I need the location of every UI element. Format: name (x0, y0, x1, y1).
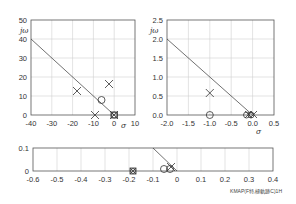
x-tick: -0.1 (147, 175, 160, 184)
y-tick: 1.5 (153, 54, 163, 63)
x-tick: 10 (131, 119, 139, 128)
x-tick: -0.5 (225, 119, 238, 128)
plot-frame (167, 20, 274, 115)
x-tick: -20 (67, 119, 78, 128)
plot-frame (31, 20, 135, 115)
x-tick: 0 (112, 119, 116, 128)
x-tick: 0.3 (244, 175, 254, 184)
x-tick: -40 (26, 119, 37, 128)
x-axis-label: σ (256, 127, 262, 136)
y-axis-label: jω (148, 26, 158, 35)
x-tick: 0.4 (268, 175, 278, 184)
y-tick: 20 (19, 73, 27, 82)
x-tick: -2.0 (161, 119, 174, 128)
y-tick: 50 (19, 16, 27, 25)
pole-marker (73, 87, 81, 95)
x-tick: -1.5 (182, 119, 195, 128)
figure-footnote: KMAP(F特,極軌跡C)1H (230, 188, 282, 195)
x-tick: 0.5 (269, 119, 279, 128)
x-tick: -0.4 (75, 175, 88, 184)
x-tick: -1.0 (203, 119, 216, 128)
y-tick: 40 (19, 35, 27, 44)
x-tick: -0.5 (51, 175, 64, 184)
y-tick: 30 (19, 54, 27, 63)
y-tick: 2.5 (153, 16, 163, 25)
y-tick: 0.5 (153, 92, 163, 101)
root-locus-figure: 50 40 30 20 10 0 jω -40 -30 -20 -10 0 10… (0, 0, 296, 204)
x-tick: -0.2 (123, 175, 136, 184)
x-tick: 0.2 (220, 175, 230, 184)
x-tick: 0.1 (196, 175, 206, 184)
pole-marker (105, 80, 113, 88)
zero-marker (98, 97, 105, 104)
y-tick: 10 (19, 92, 27, 101)
y-axis-label: jω (18, 26, 28, 35)
y-tick: 2.0 (153, 35, 163, 44)
x-axis-label: σ (121, 121, 127, 130)
x-tick: 0 (175, 175, 179, 184)
x-tick: -10 (88, 119, 99, 128)
plot-top-right: 2.5 2.0 1.5 1.0 0.5 0.0 jω -2.0 -1.5 -1.… (148, 16, 279, 137)
plot-top-left: 50 40 30 20 10 0 jω -40 -30 -20 -10 0 10… (18, 16, 139, 131)
plot-bottom: 0.1 0 -0.6 -0.5 -0.4 -0.3 -0.2 -0.1 0 0.… (19, 144, 279, 185)
x-tick: -30 (46, 119, 57, 128)
pole-marker (167, 163, 175, 171)
x-tick: -0.3 (99, 175, 112, 184)
y-tick: 1.0 (153, 73, 163, 82)
x-tick: -0.6 (27, 175, 40, 184)
y-tick: 0.1 (19, 144, 29, 153)
